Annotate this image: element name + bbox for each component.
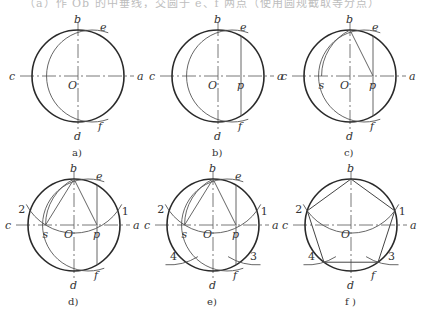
label-c: c xyxy=(282,219,288,232)
panel-b: bdcaOefpb) xyxy=(149,13,284,158)
label-c: c xyxy=(281,70,287,83)
label-c: c xyxy=(9,70,15,83)
label-a: a xyxy=(409,70,416,83)
label-s: s xyxy=(43,228,49,241)
label-point-2: 2 xyxy=(18,203,25,216)
label-p: p xyxy=(232,228,239,241)
label-O: O xyxy=(203,228,212,241)
label-b: b xyxy=(209,162,216,175)
label-b: b xyxy=(347,162,354,175)
panel-f: bdcaOf1234f ) xyxy=(282,162,417,307)
caption-d: d) xyxy=(68,296,78,307)
label-b: b xyxy=(346,13,353,26)
caption-a: a) xyxy=(72,147,82,158)
label-s: s xyxy=(182,228,188,241)
label-c: c xyxy=(5,219,11,232)
label-O: O xyxy=(208,79,217,92)
label-point-1: 1 xyxy=(261,205,268,218)
label-f: f xyxy=(237,120,244,133)
label-point-4: 4 xyxy=(308,250,315,263)
label-f: f xyxy=(369,120,376,133)
label-b: b xyxy=(70,162,77,175)
label-O: O xyxy=(340,79,349,92)
label-s: s xyxy=(319,79,325,92)
panel-a: bdcaOefa) xyxy=(9,13,144,158)
label-p: p xyxy=(369,79,376,92)
label-f: f xyxy=(97,120,104,133)
label-d: d xyxy=(347,279,354,292)
label-b: b xyxy=(214,13,221,26)
panel-c: bdcaOefpsc) xyxy=(281,13,416,158)
label-b: b xyxy=(74,13,81,26)
label-e: e xyxy=(96,170,103,183)
label-f: f xyxy=(232,269,239,282)
label-d: d xyxy=(70,279,77,292)
caption-b: b) xyxy=(212,147,222,158)
label-d: d xyxy=(214,130,221,143)
caption-c: c) xyxy=(344,147,354,158)
caption-e: e) xyxy=(207,296,217,307)
label-point-3: 3 xyxy=(388,250,395,263)
label-O: O xyxy=(68,79,77,92)
line-bp xyxy=(74,179,97,225)
label-point-4: 4 xyxy=(170,250,177,263)
label-a: a xyxy=(272,219,279,232)
label-a: a xyxy=(133,219,140,232)
panel-e: bdcaOefps1234e) xyxy=(144,162,279,307)
label-point-3: 3 xyxy=(250,250,257,263)
label-f: f xyxy=(370,269,377,282)
line-bp xyxy=(213,179,236,225)
label-f: f xyxy=(93,269,100,282)
label-e: e xyxy=(100,21,107,34)
label-d: d xyxy=(346,130,353,143)
label-e: e xyxy=(235,170,242,183)
caption-f: f ) xyxy=(345,296,356,307)
line-bp xyxy=(350,30,373,76)
label-O: O xyxy=(64,228,73,241)
label-a: a xyxy=(137,70,144,83)
pentagon-construction-figure: bdcaOefa)bdcaOefpb)bdcaOefpsc)bdcaOefps1… xyxy=(0,0,422,319)
label-point-1: 1 xyxy=(399,205,406,218)
label-d: d xyxy=(209,279,216,292)
label-e: e xyxy=(372,21,379,34)
label-c: c xyxy=(149,70,155,83)
label-point-2: 2 xyxy=(157,203,164,216)
label-point-2: 2 xyxy=(295,203,302,216)
label-O: O xyxy=(341,228,350,241)
label-p: p xyxy=(93,228,100,241)
label-e: e xyxy=(240,21,247,34)
label-point-1: 1 xyxy=(122,205,129,218)
panel-d: bdcaOefps12d) xyxy=(5,162,140,307)
label-a: a xyxy=(410,219,417,232)
label-d: d xyxy=(74,130,81,143)
label-p: p xyxy=(237,79,244,92)
label-c: c xyxy=(144,219,150,232)
